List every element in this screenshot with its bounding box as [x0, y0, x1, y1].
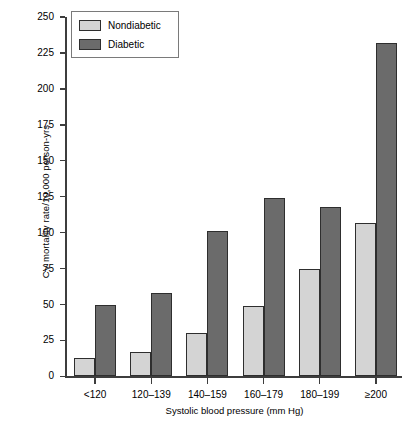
y-tick-label: 225: [20, 48, 54, 58]
y-tick-label: 100: [20, 228, 54, 238]
plot-area: 0255075100125150175200225250 <120120–139…: [65, 17, 402, 378]
bar: [320, 207, 341, 377]
x-tick-label: ≥200: [336, 389, 409, 400]
bar-chart-figure: CV mortality rate/10,000 person-yrs 0255…: [0, 0, 409, 430]
legend: Nondiabetic Diabetic: [71, 11, 179, 58]
y-tick-label: 75: [20, 264, 54, 274]
x-tick-mark: [319, 378, 320, 384]
y-tick-mark: [60, 88, 65, 89]
y-tick-mark: [60, 376, 65, 377]
bar: [299, 269, 320, 377]
y-tick-mark: [60, 268, 65, 269]
bar: [207, 231, 228, 376]
x-tick-mark: [94, 378, 95, 384]
bar: [243, 306, 264, 376]
bar: [74, 358, 95, 377]
y-tick-label: 125: [20, 192, 54, 202]
x-axis-title: Systolic blood pressure (mm Hg): [60, 405, 409, 416]
y-tick-label: 25: [20, 335, 54, 345]
y-tick-mark: [60, 16, 65, 17]
bar: [186, 333, 207, 376]
legend-label-diabetic: Diabetic: [108, 39, 144, 50]
bar: [95, 305, 116, 377]
y-tick-label: 150: [20, 156, 54, 166]
bar: [355, 223, 376, 377]
x-tick-mark: [207, 378, 208, 384]
legend-label-nondiabetic: Nondiabetic: [108, 20, 161, 31]
y-tick-mark: [60, 304, 65, 305]
y-tick-mark: [60, 340, 65, 341]
y-tick-mark: [60, 160, 65, 161]
x-tick-mark: [263, 378, 264, 384]
x-tick-mark: [151, 378, 152, 384]
x-tick-mark: [375, 378, 376, 384]
y-tick-mark: [60, 124, 65, 125]
bar: [264, 198, 285, 376]
x-axis-line: [65, 376, 402, 378]
y-tick-mark: [60, 196, 65, 197]
y-tick-mark: [60, 52, 65, 53]
bar: [151, 293, 172, 376]
y-tick-label: 250: [20, 12, 54, 22]
bar: [130, 352, 151, 376]
y-tick-label: 50: [20, 300, 54, 310]
y-axis-tick-labels: 0255075100125150175200225250: [20, 17, 54, 378]
y-tick-label: 175: [20, 120, 54, 130]
legend-entry-nondiabetic: Nondiabetic: [79, 18, 161, 32]
legend-entry-diabetic: Diabetic: [79, 37, 144, 51]
y-tick-label: 0: [20, 371, 54, 381]
legend-swatch-icon-diabetic: [79, 39, 101, 50]
bar: [376, 43, 397, 377]
y-axis-line: [65, 17, 67, 378]
y-tick-label: 200: [20, 84, 54, 94]
legend-swatch-icon-nondiabetic: [79, 20, 101, 31]
y-tick-mark: [60, 232, 65, 233]
